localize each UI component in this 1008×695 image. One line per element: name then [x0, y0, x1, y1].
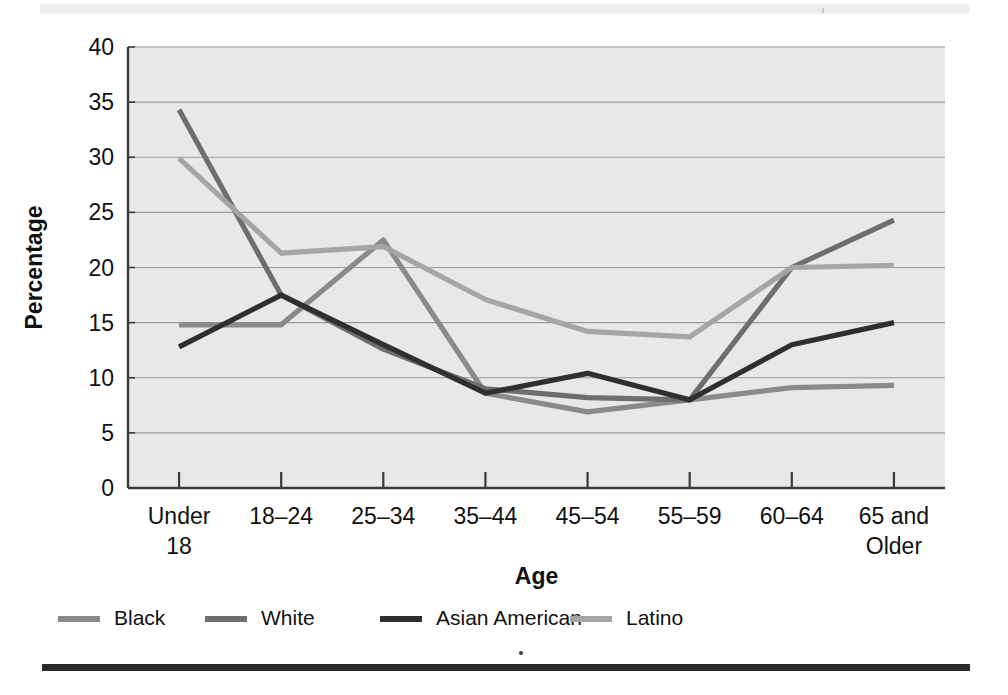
- x-axis-title: Age: [515, 563, 558, 589]
- legend-item-asian-american[interactable]: Asian American: [380, 606, 582, 629]
- x-tick-label-7: 65 and: [859, 503, 929, 529]
- legend-label-latino: Latino: [626, 606, 683, 629]
- y-tick-label-30: 30: [88, 144, 114, 170]
- y-tick-label-5: 5: [101, 420, 114, 446]
- x-tick-label-4: 45–54: [556, 503, 620, 529]
- page-bottom-rule: [42, 664, 970, 671]
- y-tick-label-0: 0: [101, 475, 114, 501]
- x-tick-label-2: 25–34: [351, 503, 415, 529]
- line-chart: 0510152025303540 Under1818–2425–3435–444…: [0, 0, 1008, 695]
- x-tick-label-1: 18–24: [249, 503, 313, 529]
- y-axis-title: Percentage: [21, 205, 47, 329]
- legend-label-white: White: [261, 606, 315, 629]
- y-tick-label-20: 20: [88, 255, 114, 281]
- legend-item-black[interactable]: Black: [58, 606, 166, 629]
- x-tick-label-3: 35–44: [453, 503, 517, 529]
- y-tick-label-15: 15: [88, 310, 114, 336]
- x-tick-label-0: Under: [148, 503, 211, 529]
- y-tick-label-40: 40: [88, 34, 114, 60]
- figure-container: 0510152025303540 Under1818–2425–3435–444…: [0, 0, 1008, 695]
- legend-label-asian-american: Asian American: [436, 606, 582, 629]
- x-tick-label-7-line2: Older: [866, 533, 923, 559]
- legend-label-black: Black: [114, 606, 166, 629]
- legend-item-white[interactable]: White: [205, 606, 315, 629]
- x-tick-label-0-line2: 18: [166, 533, 192, 559]
- x-tick-label-6: 60–64: [760, 503, 824, 529]
- y-tick-label-25: 25: [88, 199, 114, 225]
- legend-item-latino[interactable]: Latino: [570, 606, 683, 629]
- x-tick-label-5: 55–59: [658, 503, 722, 529]
- page-dot: [519, 651, 523, 655]
- y-tick-label-35: 35: [88, 89, 114, 115]
- y-tick-label-10: 10: [88, 365, 114, 391]
